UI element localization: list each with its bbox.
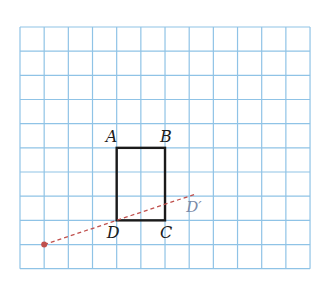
- label-c: C: [160, 223, 172, 242]
- label-d-prime: D′: [185, 198, 202, 216]
- dashed-line-to-d-prime: [44, 194, 196, 245]
- grid-diagram: A B C D D′: [0, 0, 330, 284]
- label-d: D: [106, 223, 120, 242]
- label-a: A: [104, 127, 118, 146]
- center-point: [41, 242, 47, 248]
- label-b: B: [159, 127, 172, 146]
